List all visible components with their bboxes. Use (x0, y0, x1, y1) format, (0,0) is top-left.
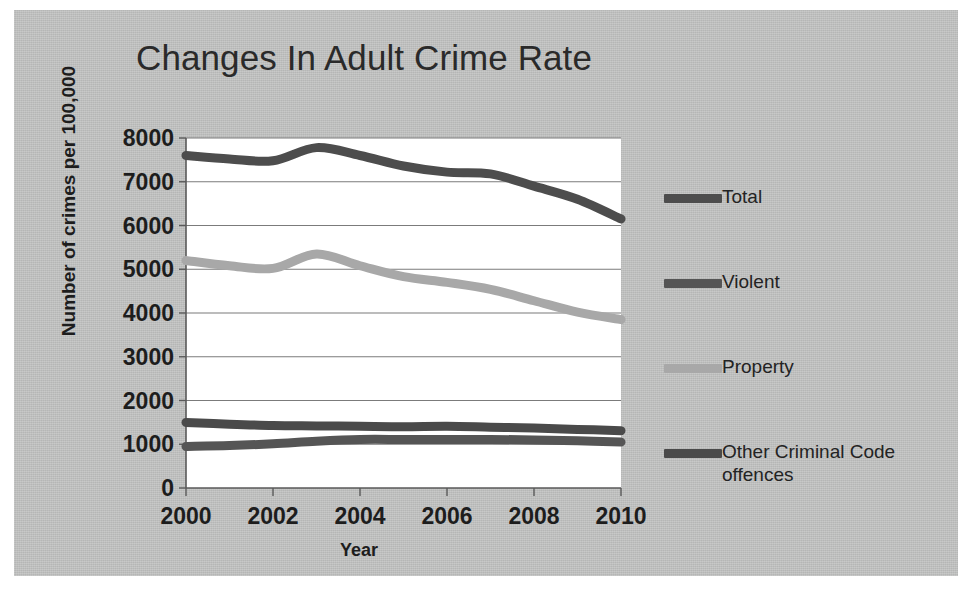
legend-swatch-icon (664, 194, 722, 203)
y-tick-label: 1000 (123, 431, 174, 457)
legend-label: Other Criminal Code offences (722, 440, 940, 486)
y-tick-label: 4000 (123, 300, 174, 326)
legend-label: Total (722, 185, 762, 208)
x-tick-label: 2008 (508, 503, 559, 529)
y-tick-label: 6000 (123, 213, 174, 239)
legend-swatch-icon (664, 279, 722, 288)
y-tick-label: 8000 (123, 125, 174, 151)
legend-label: Property (722, 355, 794, 378)
y-tick-label: 3000 (123, 344, 174, 370)
screenshot-page: Changes In Adult Crime Rate Number of cr… (0, 0, 977, 598)
x-tick-label: 2004 (334, 503, 385, 529)
x-tick-label: 2006 (421, 503, 472, 529)
legend-item[interactable]: Total (664, 185, 762, 208)
y-tick-label: 0 (161, 475, 174, 501)
legend-item[interactable]: Violent (664, 270, 780, 293)
y-tick-label: 5000 (123, 256, 174, 282)
y-axis-tick-labels: 010002000300040005000600070008000 (123, 125, 174, 501)
legend-item[interactable]: Property (664, 355, 794, 378)
y-tick-label: 2000 (123, 388, 174, 414)
legend-swatch-icon (664, 364, 722, 373)
x-tick-label: 2010 (595, 503, 646, 529)
legend-item[interactable]: Other Criminal Code offences (664, 440, 940, 486)
chart-image: Changes In Adult Crime Rate Number of cr… (14, 10, 958, 576)
x-tick-label: 2002 (247, 503, 298, 529)
legend-swatch-icon (664, 449, 722, 458)
y-tick-label: 7000 (123, 169, 174, 195)
legend-label: Violent (722, 270, 780, 293)
plot-area: 010002000300040005000600070008000 200020… (14, 10, 958, 576)
x-tick-label: 2000 (160, 503, 211, 529)
x-axis-tick-labels: 200020022004200620082010 (160, 503, 646, 529)
